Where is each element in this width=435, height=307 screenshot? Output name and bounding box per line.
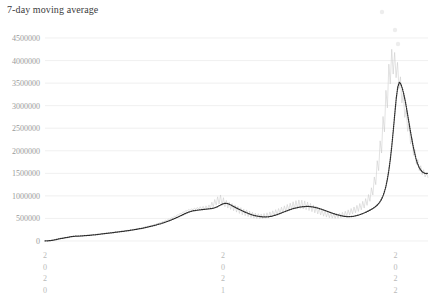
x-axis-tick-label: 2 xyxy=(393,274,397,283)
y-axis-tick-label: 4500000 xyxy=(12,34,40,43)
y-axis-tick-label: 2000000 xyxy=(12,147,40,156)
outlier-marker xyxy=(393,28,397,32)
x-axis-labels: 202020212022 xyxy=(43,251,397,295)
raw-daily-series xyxy=(45,49,428,241)
x-axis-tick-label: 2 xyxy=(221,251,225,260)
outlier-markers xyxy=(380,10,400,46)
x-axis-tick-label: 0 xyxy=(393,263,397,272)
outlier-marker xyxy=(380,10,384,14)
x-axis-tick-label: 2 xyxy=(43,251,47,260)
y-axis-labels: 4500000400000035000003000000250000020000… xyxy=(12,34,40,246)
line-chart: 4500000400000035000003000000250000020000… xyxy=(0,0,435,307)
x-axis-tick-label: 0 xyxy=(43,263,47,272)
y-axis-tick-label: 1000000 xyxy=(12,192,40,201)
x-axis-tick-label: 2 xyxy=(221,274,225,283)
y-axis-tick-label: 2500000 xyxy=(12,124,40,133)
x-axis-tick-label: 0 xyxy=(221,263,225,272)
y-axis-tick-label: 500000 xyxy=(16,214,40,223)
x-axis-tick-label: 1 xyxy=(221,286,225,295)
outlier-marker xyxy=(396,42,400,46)
chart-container: 7-day moving average 4500000400000035000… xyxy=(0,0,435,307)
x-axis-tick-label: 2 xyxy=(43,274,47,283)
y-axis-tick-label: 4000000 xyxy=(12,57,40,66)
x-axis-tick-label: 2 xyxy=(393,286,397,295)
x-axis-tick-label: 0 xyxy=(43,286,47,295)
x-axis-tick-label: 2 xyxy=(393,251,397,260)
y-axis-tick-label: 1500000 xyxy=(12,169,40,178)
y-axis-tick-label: 0 xyxy=(36,237,40,246)
y-axis-tick-label: 3000000 xyxy=(12,102,40,111)
y-axis-tick-label: 3500000 xyxy=(12,79,40,88)
